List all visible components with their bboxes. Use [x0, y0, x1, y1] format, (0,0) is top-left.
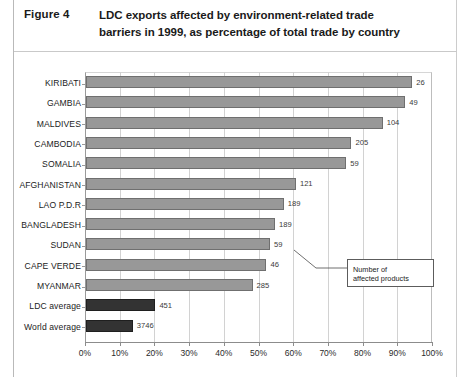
x-axis-tick	[85, 342, 86, 346]
bar	[86, 238, 270, 250]
category-tick	[82, 104, 85, 105]
category-tick	[82, 266, 85, 267]
category-tick	[82, 307, 85, 308]
figure-title: LDC exports affected by environment-rela…	[99, 7, 449, 40]
annotation-line-1: Number of	[353, 265, 387, 274]
category-label: MALDIVES	[37, 119, 81, 129]
bar-value-label: 49	[409, 98, 417, 107]
x-axis-tick	[293, 342, 294, 346]
bar-row: BANGLADESH189	[18, 216, 450, 236]
category-tick	[82, 205, 85, 206]
bar-row: MALDIVES104	[18, 115, 450, 135]
category-label: BANGLADESH	[21, 220, 81, 230]
x-axis-tick-label: 0%	[79, 348, 91, 358]
x-axis-tick	[189, 342, 190, 346]
bar-value-label: 3746	[137, 321, 154, 330]
bar	[86, 178, 296, 190]
bar-value-label: 189	[288, 199, 301, 208]
x-axis-tick-label: 40%	[215, 348, 232, 358]
bar	[86, 137, 351, 149]
category-label: World average	[24, 322, 81, 332]
category-label: CAMBODIA	[34, 139, 81, 149]
x-axis-tick	[328, 342, 329, 346]
category-label: AFGHANISTAN	[19, 180, 81, 190]
bar-value-label: 451	[159, 301, 172, 310]
callout-leader-line	[294, 248, 350, 274]
bar-row: LAO P.D.R189	[18, 196, 450, 216]
bar	[86, 96, 405, 108]
page-left-rule	[13, 0, 14, 377]
category-label: SUDAN	[50, 240, 81, 250]
category-label: SOMALIA	[42, 159, 81, 169]
x-axis-tick-label: 50%	[250, 348, 267, 358]
x-axis-tick	[397, 342, 398, 346]
x-axis-tick-label: 60%	[285, 348, 302, 358]
x-axis-tick-label: 70%	[319, 348, 336, 358]
bar-row: GAMBIA49	[18, 94, 450, 114]
category-tick	[82, 287, 85, 288]
category-label: LDC average	[29, 301, 81, 311]
category-tick	[82, 246, 85, 247]
category-label: GAMBIA	[47, 98, 81, 108]
x-axis-tick-label: 80%	[354, 348, 371, 358]
x-axis-tick	[120, 342, 121, 346]
bar	[86, 198, 284, 210]
category-tick	[82, 124, 85, 125]
figure-title-line-1: LDC exports affected by environment-rela…	[99, 7, 449, 24]
category-label: KIRIBATI	[45, 78, 81, 88]
bar	[86, 76, 412, 88]
category-label: MYANMAR	[37, 281, 81, 291]
bar-chart: KIRIBATI26GAMBIA49MALDIVES104CAMBODIA205…	[18, 62, 450, 362]
category-tick	[82, 185, 85, 186]
x-axis-tick-label: 100%	[421, 348, 443, 358]
category-label: CAPE VERDE	[25, 261, 81, 271]
category-tick	[82, 165, 85, 166]
bar	[86, 157, 346, 169]
bar	[86, 299, 155, 311]
bar-value-label: 59	[274, 240, 282, 249]
x-axis-tick	[259, 342, 260, 346]
bar-value-label: 104	[387, 118, 400, 127]
figure-header: Figure 4 LDC exports affected by environ…	[0, 0, 465, 51]
bar-row: World average3746	[18, 318, 450, 338]
bar-row: LDC average451	[18, 297, 450, 317]
x-axis-tick-label: 30%	[181, 348, 198, 358]
annotation-line-2: affected products	[353, 274, 409, 283]
bar-row: KIRIBATI26	[18, 74, 450, 94]
figure-label: Figure 4	[24, 8, 70, 20]
annotation-callout: Number of affected products	[347, 259, 434, 287]
bar	[86, 259, 266, 271]
x-axis-tick-label: 10%	[111, 348, 128, 358]
bar-value-label: 46	[270, 260, 278, 269]
x-axis-tick	[224, 342, 225, 346]
bar	[86, 117, 383, 129]
page-right-rule	[456, 0, 457, 377]
bar-value-label: 121	[300, 179, 313, 188]
bar-value-label: 189	[279, 220, 292, 229]
bar	[86, 218, 275, 230]
bar-row: CAMBODIA205	[18, 135, 450, 155]
x-axis-tick-label: 20%	[146, 348, 163, 358]
category-tick	[82, 327, 85, 328]
category-label: LAO P.D.R	[39, 200, 81, 210]
figure-title-line-2: barriers in 1999, as percentage of total…	[99, 24, 449, 41]
bar-value-label: 205	[355, 138, 368, 147]
figure-page: Figure 4 LDC exports affected by environ…	[0, 0, 465, 377]
x-axis-tick	[154, 342, 155, 346]
bar-value-label: 26	[416, 78, 424, 87]
bar-value-label: 59	[350, 159, 358, 168]
category-tick	[82, 226, 85, 227]
bar-row: SUDAN59	[18, 236, 450, 256]
bar	[86, 320, 133, 332]
x-axis-tick	[432, 342, 433, 346]
bar-row: AFGHANISTAN121	[18, 176, 450, 196]
bar	[86, 279, 253, 291]
category-tick	[82, 84, 85, 85]
x-axis-tick	[363, 342, 364, 346]
x-axis-tick-label: 90%	[389, 348, 406, 358]
bar-row: SOMALIA59	[18, 155, 450, 175]
header-divider	[14, 51, 457, 52]
bar-value-label: 285	[257, 281, 270, 290]
category-tick	[82, 144, 85, 145]
